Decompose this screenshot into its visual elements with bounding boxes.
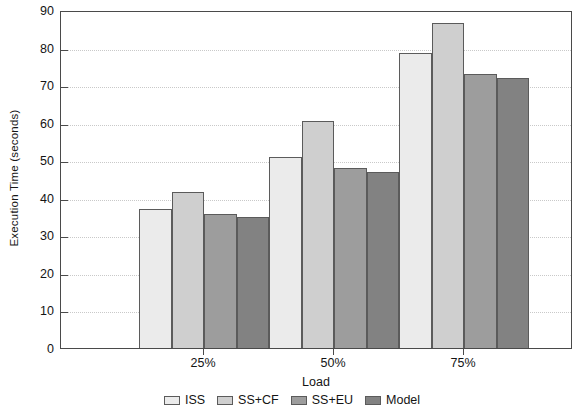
y-axis-tick-label: 70 [8, 80, 54, 93]
y-axis-tick-label: 10 [8, 305, 54, 318]
bar [302, 121, 335, 349]
y-axis-tick [61, 275, 68, 276]
legend-swatch-icon [217, 396, 233, 405]
x-axis-tick-label: 50% [293, 356, 373, 370]
y-axis-tick [61, 237, 68, 238]
bar [139, 209, 172, 349]
y-axis-tick-label: 30 [8, 230, 54, 243]
legend-item: Model [365, 393, 420, 407]
y-axis-tick-label: 50 [8, 155, 54, 168]
bar [399, 53, 432, 349]
legend-item: ISS [164, 393, 205, 407]
chart-figure: Execution Time (seconds) 010203040506070… [0, 0, 584, 414]
legend-item: SS+CF [217, 393, 279, 407]
bar [464, 74, 497, 349]
legend-swatch-icon [365, 396, 381, 405]
x-axis-tick [463, 349, 464, 355]
bar [497, 78, 530, 349]
bar [269, 157, 302, 349]
y-axis-tick [61, 50, 68, 51]
y-axis-tick [61, 87, 68, 88]
x-axis-tick [333, 349, 334, 355]
y-axis-tick-label: 90 [8, 5, 54, 18]
x-axis-tick-label: 25% [163, 356, 243, 370]
bar [367, 172, 400, 349]
chart-legend: ISSSS+CFSS+EUModel [0, 393, 584, 407]
x-axis-tick [203, 349, 204, 355]
bar [204, 214, 237, 349]
legend-label: SS+EU [312, 393, 353, 407]
y-axis-tick [61, 125, 68, 126]
bar [334, 168, 367, 349]
plot-area [60, 11, 572, 349]
bar [432, 23, 465, 349]
legend-swatch-icon [291, 396, 307, 405]
y-axis-tick [61, 162, 68, 163]
legend-label: Model [386, 393, 420, 407]
legend-swatch-icon [164, 396, 180, 405]
bar [237, 217, 270, 349]
x-axis-tick-label: 75% [423, 356, 503, 370]
legend-label: ISS [185, 393, 205, 407]
legend-item: SS+EU [291, 393, 353, 407]
y-axis-tick-label: 0 [8, 343, 54, 356]
y-axis-tick-label: 80 [8, 43, 54, 56]
gridline [61, 50, 571, 51]
bar [172, 192, 205, 349]
legend-label: SS+CF [238, 393, 279, 407]
y-axis-tick-label: 40 [8, 193, 54, 206]
y-axis-tick [61, 312, 68, 313]
y-axis-tick [61, 200, 68, 201]
y-axis-title: Execution Time (seconds) [8, 78, 20, 278]
y-axis-tick-label: 60 [8, 118, 54, 131]
y-axis-tick-label: 20 [8, 268, 54, 281]
x-axis-title: Load [60, 375, 572, 389]
